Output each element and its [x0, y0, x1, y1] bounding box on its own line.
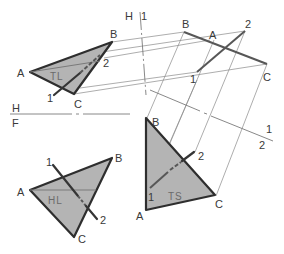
label-edge-2: 2 — [245, 18, 251, 30]
label-top-c: C — [74, 98, 82, 110]
label-top-a: A — [17, 67, 25, 79]
label-top-2: 2 — [103, 57, 109, 69]
label-front-c: C — [78, 233, 86, 245]
fold-line-1-2 — [150, 90, 273, 141]
label-edge-1: 1 — [190, 73, 196, 85]
line-1-2-ts-b — [182, 152, 194, 161]
label-edge-c: C — [263, 71, 271, 83]
descriptive-geometry-diagram: A B C 1 2 TL H F H 1 B A 2 1 C 1 2 A B C… — [0, 0, 284, 254]
line-1-2-visible-end — [86, 206, 97, 219]
label-ts-c: C — [215, 198, 223, 210]
label-fold-2-right: 2 — [259, 139, 265, 151]
label-ts-2: 2 — [198, 150, 204, 162]
fold-line-h-1 — [140, 12, 146, 95]
label-edge-a: A — [209, 29, 217, 41]
label-tl: TL — [50, 71, 64, 82]
label-fold-f: F — [12, 117, 19, 129]
label-front-a: A — [17, 186, 25, 198]
label-front-b: B — [115, 152, 122, 164]
label-fold-1-right: 1 — [266, 123, 272, 135]
plane-abc-top — [30, 42, 112, 94]
label-front-1: 1 — [46, 156, 52, 168]
label-front-2: 2 — [100, 214, 106, 226]
label-fold-h: H — [12, 102, 20, 114]
label-fold-h-top: H — [125, 10, 133, 22]
label-ts-b: B — [152, 116, 159, 128]
label-ts-a: A — [136, 210, 144, 222]
label-fold-1-top: 1 — [141, 10, 147, 22]
top-view — [30, 42, 112, 95]
label-top-b: B — [110, 28, 117, 40]
label-hl: HL — [48, 195, 63, 206]
label-edge-b: B — [182, 18, 189, 30]
label-ts-1: 1 — [148, 191, 154, 203]
label-top-1: 1 — [47, 92, 53, 104]
label-ts: TS — [168, 191, 183, 202]
